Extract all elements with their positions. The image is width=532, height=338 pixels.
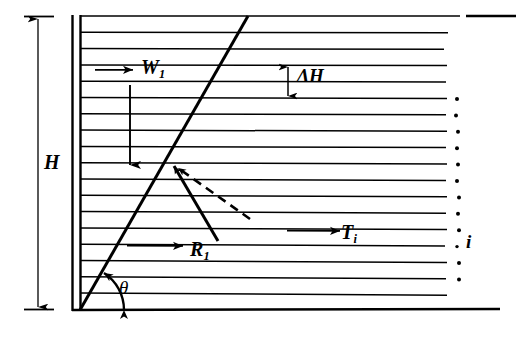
w1-vector-group	[95, 70, 133, 165]
label-reaction-force: R1	[190, 239, 210, 259]
figure-canvas: H W1 ΔH R1 Ti i θ	[0, 0, 532, 338]
slice-line	[80, 65, 447, 66]
label-interslice-force: Ti	[341, 222, 357, 242]
label-slice-index: i	[466, 232, 471, 251]
slice-end-dot	[455, 179, 459, 183]
label-failure-angle: θ	[119, 278, 128, 297]
r1-force-line	[174, 166, 218, 241]
base-line	[72, 309, 500, 310]
slice-lines-group	[80, 16, 460, 295]
slice-line	[80, 130, 447, 131]
slice-line	[80, 98, 447, 99]
label-reaction-force-subscript: 1	[204, 249, 210, 263]
slice-line	[80, 179, 446, 180]
label-slice-weight-symbol: W	[141, 56, 159, 78]
label-reaction-force-symbol: R	[190, 238, 203, 260]
slice-line	[80, 293, 447, 295]
slice-end-dot	[457, 277, 461, 281]
slice-end-dot	[455, 245, 458, 248]
retaining-wall	[73, 15, 81, 311]
slice-line	[80, 261, 447, 263]
slice-end-dot	[456, 163, 460, 167]
slice-end-dot	[454, 113, 458, 117]
slice-end-dots-group	[454, 97, 461, 281]
slice-line	[80, 81, 446, 82]
label-slice-thickness: ΔH	[297, 66, 324, 85]
label-wall-height: H	[44, 152, 60, 172]
slice-line	[80, 228, 447, 230]
slice-end-dot	[456, 130, 460, 134]
slice-end-dot	[456, 212, 460, 216]
slice-end-dot	[455, 97, 459, 101]
slice-line	[80, 277, 446, 279]
label-interslice-force-symbol: T	[341, 221, 353, 243]
slice-end-dot	[457, 261, 461, 265]
slice-end-dot	[457, 228, 461, 232]
slice-line	[80, 195, 447, 197]
diagram-svg	[0, 0, 532, 338]
slice-line	[80, 163, 447, 164]
slice-line	[80, 49, 444, 50]
slice-line	[80, 146, 446, 147]
label-interslice-force-subscript: i	[353, 232, 356, 246]
slice-end-dot	[457, 195, 461, 199]
slice-end-dot	[455, 146, 459, 150]
label-slice-weight: W1	[141, 57, 165, 77]
label-slice-weight-subscript: 1	[159, 67, 165, 81]
slice-line	[80, 114, 446, 115]
